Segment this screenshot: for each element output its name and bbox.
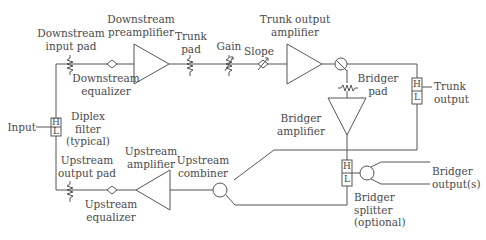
upstream-combiner-icon xyxy=(213,183,227,197)
bridger-diplex-low-label: L xyxy=(342,174,352,185)
label-input: Input xyxy=(7,121,36,134)
bridger-diplex-high-label: H xyxy=(342,161,352,172)
input-diplex-low-label: L xyxy=(51,126,61,137)
label-downstream-input-pad: Downstream input pad xyxy=(37,27,105,52)
label-upstream-equalizer: Upstream equalizer xyxy=(85,198,138,223)
amplifier-block-diagram: H L H L H L Downstream input pad Downstr… xyxy=(0,0,486,240)
label-diplex-filter: Diplex filter (typical) xyxy=(66,110,110,148)
label-gain: Gain xyxy=(217,40,242,53)
gain-control-icon xyxy=(225,55,233,76)
upstream-output-pad-icon xyxy=(67,181,73,202)
downstream-equalizer-icon xyxy=(107,60,117,68)
label-bridger-amplifier: Bridger amplifier xyxy=(277,112,325,137)
label-bridger-pad: Bridger pad xyxy=(358,72,399,97)
upstream-equalizer-icon xyxy=(107,186,117,194)
bridger-amplifier-icon xyxy=(328,98,366,135)
label-downstream-equalizer: Downstream equalizer xyxy=(72,72,140,97)
bridger-output-line-1 xyxy=(371,162,430,167)
bridger-output-line-2 xyxy=(371,179,430,184)
label-bridger-outputs: Bridger output(s) xyxy=(432,165,481,190)
label-trunk-pad: Trunk pad xyxy=(175,30,207,55)
label-trunk-output: Trunk output xyxy=(434,80,469,105)
label-upstream-amplifier: Upstream amplifier xyxy=(125,145,178,170)
label-upstream-output-pad: Upstream output pad xyxy=(58,154,116,179)
trunk-diplex-high-label: H xyxy=(412,79,422,90)
bridger-pad-icon xyxy=(338,85,358,91)
trunk-pad-icon xyxy=(187,55,193,76)
label-slope: Slope xyxy=(244,45,274,58)
directional-coupler-icon xyxy=(335,58,347,70)
label-bridger-splitter: Bridger splitter (optional) xyxy=(354,191,406,229)
trunk-diplex-low-label: L xyxy=(412,92,422,103)
label-downstream-preamplifier: Downstream preamplifier xyxy=(107,13,175,38)
bridger-splitter-icon xyxy=(360,166,374,180)
upstream-amplifier-icon xyxy=(136,170,170,210)
slope-control-icon xyxy=(258,58,268,70)
trunk-output-amplifier-icon xyxy=(287,44,322,84)
label-trunk-output-amplifier: Trunk output amplifier xyxy=(260,13,330,38)
label-upstream-combiner: Upstream combiner xyxy=(177,154,230,179)
